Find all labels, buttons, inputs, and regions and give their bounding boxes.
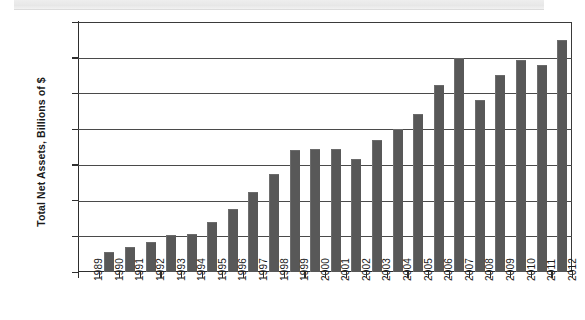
bar-1999 <box>290 150 300 272</box>
bar-1990 <box>104 252 114 272</box>
y-tick-mark-10000 <box>72 93 78 94</box>
x-tick-mark-1990 <box>99 272 100 278</box>
bar-2006 <box>434 85 444 272</box>
y-axis-title: Total Net Assets, Billions of $ <box>35 27 47 277</box>
x-tick-mark-2003 <box>366 272 367 278</box>
x-tick-mark-2002 <box>346 272 347 278</box>
x-tick-mark-2000 <box>304 272 305 278</box>
y-tick-mark-8000 <box>72 129 78 130</box>
x-tick-mark-1996 <box>222 272 223 278</box>
bar-chart: Total Net Assets, Billions of $ 02,0004,… <box>0 0 585 320</box>
x-tick-mark-2001 <box>325 272 326 278</box>
bar-2004 <box>393 129 403 272</box>
bar-2000 <box>310 149 320 272</box>
bar-2005 <box>413 114 423 272</box>
x-tick-mark-2006 <box>428 272 429 278</box>
x-tick-mark-end <box>572 272 573 278</box>
x-tick-mark-1989 <box>78 272 79 278</box>
bar-2008 <box>475 100 485 272</box>
x-tick-mark-2008 <box>469 272 470 278</box>
plot-area <box>78 22 572 272</box>
gridline-12000 <box>78 58 572 59</box>
x-tick-mark-2010 <box>510 272 511 278</box>
x-tick-mark-2012 <box>551 272 552 278</box>
bar-2002 <box>351 159 361 273</box>
x-tick-mark-2005 <box>407 272 408 278</box>
x-tick-mark-1992 <box>140 272 141 278</box>
x-tick-mark-1998 <box>263 272 264 278</box>
bar-2011 <box>537 65 547 272</box>
x-tick-mark-1993 <box>160 272 161 278</box>
x-tick-mark-1995 <box>202 272 203 278</box>
bar-2010 <box>516 60 526 272</box>
x-tick-mark-2011 <box>531 272 532 278</box>
bar-1998 <box>269 174 279 272</box>
plot-frame-top <box>78 22 572 23</box>
y-tick-mark-14000 <box>72 22 78 23</box>
bar-2007 <box>454 58 464 272</box>
x-tick-mark-1994 <box>181 272 182 278</box>
y-tick-mark-12000 <box>72 57 78 58</box>
bar-2001 <box>331 149 341 272</box>
bar-2009 <box>495 75 505 272</box>
x-tick-mark-1991 <box>119 272 120 278</box>
x-tick-mark-1997 <box>243 272 244 278</box>
y-tick-mark-4000 <box>72 200 78 201</box>
bar-1993 <box>166 235 176 272</box>
y-tick-mark-6000 <box>72 164 78 165</box>
y-tick-mark-2000 <box>72 236 78 237</box>
x-tick-mark-1999 <box>284 272 285 278</box>
bar-2012 <box>557 40 567 272</box>
x-tick-mark-2007 <box>449 272 450 278</box>
x-tick-mark-2009 <box>490 272 491 278</box>
x-tick-mark-2004 <box>387 272 388 278</box>
bar-2003 <box>372 140 382 272</box>
bar-1995 <box>207 222 217 272</box>
bar-1997 <box>248 192 258 272</box>
plot-frame-right <box>571 22 572 272</box>
